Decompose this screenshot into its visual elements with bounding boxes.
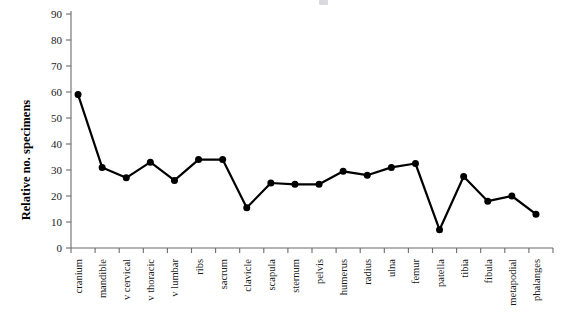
data-point [99, 164, 106, 171]
x-axis-category-label: ulna [386, 259, 397, 277]
x-axis-category-label: cranium [73, 259, 84, 293]
x-axis-category-label: ribs [194, 259, 205, 275]
y-axis-tick-label: 30 [51, 164, 63, 176]
y-axis-title-group: Relative no. specimens [19, 100, 33, 221]
series-line [78, 95, 536, 230]
data-point [484, 198, 491, 205]
x-axis [71, 248, 553, 253]
data-point [195, 156, 202, 163]
x-axis-category-label: v cervical [121, 259, 132, 300]
y-axis-title: Relative no. specimens [19, 100, 33, 221]
x-axis-category-label: clavicle [242, 259, 253, 292]
data-point [388, 164, 395, 171]
data-point [340, 168, 347, 175]
data-point [123, 174, 130, 181]
line-chart: Relative no. specimens 01020304050607080… [0, 0, 567, 323]
x-axis-category-label: mandible [97, 259, 108, 298]
data-point [316, 181, 323, 188]
data-point [267, 180, 274, 187]
x-axis-category-label: fibula [483, 259, 494, 284]
data-point [460, 173, 467, 180]
x-axis-category-label: humerus [338, 259, 349, 295]
data-point [171, 177, 178, 184]
data-point [436, 226, 443, 233]
x-axis-category-label: femur [410, 259, 421, 285]
x-axis-category-label: sacrum [218, 259, 229, 289]
data-point [364, 172, 371, 179]
data-point [243, 204, 250, 211]
y-axis-tick-label: 80 [51, 34, 63, 46]
x-axis-category-label: tibia [459, 259, 470, 278]
x-axis-category-label: metapodial [507, 259, 518, 306]
y-axis-tick-label: 90 [51, 8, 63, 20]
x-axis-category-label: pelvis [314, 259, 325, 284]
cropped-title-smudge [319, 0, 328, 5]
data-point [412, 160, 419, 167]
data-point [291, 181, 298, 188]
x-axis-category-label: patella [435, 259, 446, 287]
y-axis: 0102030405060708090 [51, 8, 71, 254]
data-series [75, 91, 540, 233]
y-axis-tick-label: 50 [51, 112, 63, 124]
data-point [75, 91, 82, 98]
y-axis-tick-label: 40 [51, 138, 63, 150]
y-axis-tick-label: 70 [51, 60, 63, 72]
data-point [219, 156, 226, 163]
chart-container: Relative no. specimens 01020304050607080… [0, 0, 567, 323]
y-axis-tick-label: 0 [57, 242, 63, 254]
y-axis-tick-label: 20 [51, 190, 63, 202]
data-point [508, 193, 515, 200]
x-axis-category-label: radius [362, 259, 373, 285]
x-axis-category-label: v lumbar [169, 259, 180, 297]
x-axis-category-label: sternum [290, 259, 301, 293]
y-axis-tick-label: 10 [51, 216, 63, 228]
x-axis-category-label: phalanges [531, 259, 542, 301]
x-axis-category-label: scapula [266, 259, 277, 291]
y-axis-tick-label: 60 [51, 86, 63, 98]
x-axis-category-label: v thoracic [145, 259, 156, 301]
x-axis-category-labels: craniummandiblev cervicalv thoracicv lum… [73, 259, 542, 306]
data-point [147, 159, 154, 166]
data-point [532, 211, 539, 218]
